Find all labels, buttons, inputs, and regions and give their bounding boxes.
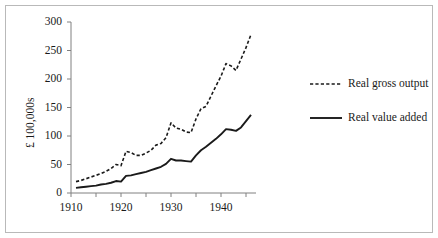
series-line	[76, 35, 251, 182]
legend-swatches	[310, 84, 342, 118]
y-tick-label: 300	[22, 16, 62, 28]
x-tick-label: 1920	[99, 202, 143, 214]
series-line	[76, 115, 251, 188]
axis-lines	[67, 22, 256, 197]
legend-label: Real gross output	[348, 78, 429, 90]
series-lines	[76, 35, 251, 188]
y-tick-label: 100	[22, 130, 62, 142]
x-tick-label: 1940	[199, 202, 243, 214]
y-tick-label: 150	[22, 102, 62, 114]
y-tick-label: 250	[22, 45, 62, 57]
y-tick-label: 200	[22, 73, 62, 85]
chart-figure: £ 100,000s 05010015020025030019101920193…	[0, 0, 438, 238]
x-tick-label: 1910	[49, 202, 93, 214]
y-tick-label: 0	[22, 187, 62, 199]
x-tick-label: 1930	[149, 202, 193, 214]
legend-label: Real value added	[348, 112, 427, 124]
y-tick-label: 50	[22, 159, 62, 171]
